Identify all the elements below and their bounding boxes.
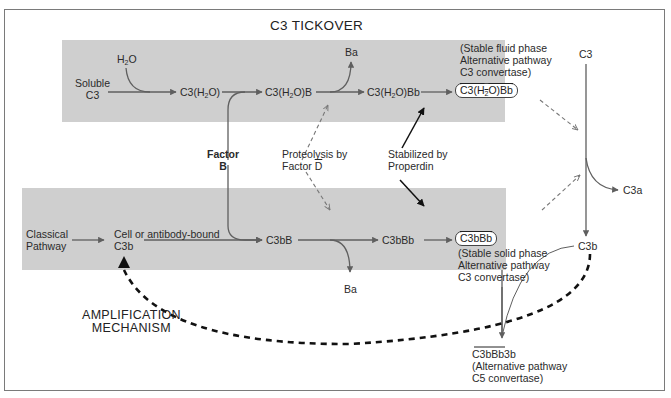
title-amplification: AMPLIFICATION MECHANISM [82,309,181,335]
label-proteolysis: Proteolysis by Factor D [282,148,347,172]
c3-cleavage-arrows [502,64,618,338]
node-c3-right: C3 [579,48,592,60]
node-ba-bottom: Ba [344,283,357,295]
title-tickover: C3 TICKOVER [270,18,363,33]
node-c3h2ob: C3(H2O)B [265,86,312,98]
arrows-layer [0,0,671,398]
label-properdin: Stabilized by Properdin [388,148,448,172]
label-water: H2O [117,53,137,65]
node-c3h2o: C3(H2O) [180,86,220,98]
node-c3h2obb: C3(H2O)Bb [367,86,420,98]
label-soluble-c3: Soluble C3 [75,77,110,101]
node-c3a: C3a [623,184,642,196]
node-ba-top: Ba [345,46,358,58]
amplification-arrowhead [118,256,130,268]
node-c3b-right: C3b [578,240,597,252]
note-fluid-convertase: (Stable fluid phase Alternative pathway … [460,42,552,78]
node-c3bbb: C3bBb [382,234,414,246]
label-factor-b: Factor B [207,148,239,172]
node-cell-bound-c3b: Cell or antibody-bound C3b [114,228,220,252]
factor-b-arrow [228,165,262,240]
convertase-fluid-box: C3(H2O)Bb [455,83,518,98]
label-classical-pathway: Classical Pathway [26,228,68,252]
node-c5-convertase: C3bBb3b (Alternative pathway C5 converta… [472,348,567,384]
note-solid-convertase: (Stable solid phase Alternative pathway … [458,247,550,283]
node-c3bb: C3bB [266,234,292,246]
convertase-solid-box: C3bBb [455,231,497,246]
tickover-arrows [108,62,452,160]
